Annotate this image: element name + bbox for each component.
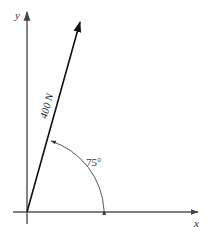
x-axis: x — [13, 212, 199, 229]
angle-arc — [51, 141, 104, 210]
x-axis-label: x — [193, 217, 199, 229]
y-axis: y — [14, 9, 27, 224]
force-diagram: x y 400 N 75° — [0, 0, 211, 233]
angle-indicator: 75° — [51, 141, 104, 210]
force-vector: 400 N — [27, 22, 80, 212]
force-label: 400 N — [38, 91, 56, 119]
y-axis-label: y — [14, 9, 20, 21]
angle-label: 75° — [86, 156, 101, 168]
force-arrow — [27, 22, 80, 212]
